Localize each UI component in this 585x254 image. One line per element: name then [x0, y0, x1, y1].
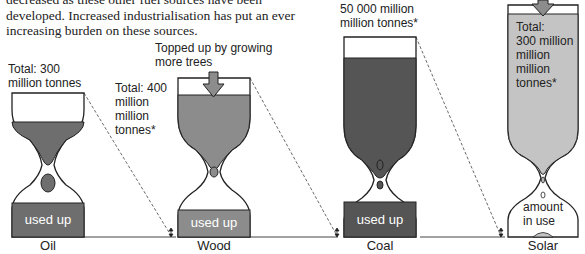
wood-used-up-label: used up: [178, 215, 250, 230]
hourglass-diagram: [0, 0, 585, 254]
hourglass-wood: [178, 72, 250, 237]
dashed-line-coal: [416, 37, 500, 234]
solar-total-label: Total: 300 million million million tonne…: [516, 20, 573, 90]
oil-caption: Oil: [12, 238, 84, 253]
dashed-line-wood: [250, 78, 336, 234]
solar-caption: Solar: [508, 238, 578, 253]
coal-caption: Coal: [344, 238, 416, 253]
oil-total-label: Total: 300 million tonnes: [8, 62, 81, 90]
wood-caption: Wood: [178, 238, 250, 253]
coal-used-up-label: used up: [344, 212, 416, 227]
wood-topup-label: Topped up by growing more trees: [155, 41, 272, 69]
coal-total-label: 50 000 million million tonnes*: [340, 2, 418, 30]
wood-total-label: Total: 400 million million tonnes*: [115, 81, 167, 137]
solar-amount-in-use-label: amount in use: [523, 200, 563, 228]
oil-used-up-label: used up: [12, 212, 84, 227]
hourglass-coal: [344, 37, 416, 237]
